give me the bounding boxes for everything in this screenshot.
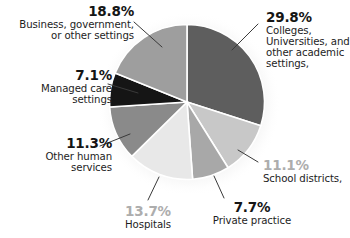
callout-school-districts: 11.1% School districts, xyxy=(263,158,349,184)
percent-managed-care: 7.1% xyxy=(4,68,112,83)
desc-private-practice-line1: Private practice xyxy=(198,215,306,226)
desc-managed-care-line1: Managed care xyxy=(4,83,112,94)
desc-colleges-line2: Universities, and xyxy=(266,36,350,47)
desc-other-human-services-line1: Other human xyxy=(2,151,112,162)
desc-managed-care-line2: settings xyxy=(4,94,112,105)
callout-private-practice: 7.7% Private practice xyxy=(198,200,306,226)
callout-business-government: 18.8% Business, government, or other set… xyxy=(6,4,134,41)
desc-other-human-services-line2: services xyxy=(2,162,112,173)
percent-school-districts: 11.1% xyxy=(263,158,349,173)
percent-private-practice: 7.7% xyxy=(198,200,306,215)
pie-chart-figure: 18.8% Business, government, or other set… xyxy=(0,0,350,238)
desc-colleges-line3: other academic xyxy=(266,47,350,58)
callout-colleges-universities: 29.8% Colleges, Universities, and other … xyxy=(266,10,350,69)
desc-colleges-line4: settings, xyxy=(266,58,350,69)
callout-hospitals: 13.7% Hospitals xyxy=(108,204,188,230)
callout-managed-care: 7.1% Managed care settings xyxy=(4,68,112,105)
desc-colleges-line1: Colleges, xyxy=(266,25,350,36)
percent-business-government: 18.8% xyxy=(6,4,134,19)
desc-school-districts-line1: School districts, xyxy=(263,173,349,184)
percent-other-human-services: 11.3% xyxy=(2,136,112,151)
percent-hospitals: 13.7% xyxy=(108,204,188,219)
percent-colleges-universities: 29.8% xyxy=(266,10,350,25)
desc-business-government-line2: or other settings xyxy=(6,30,134,41)
pie-slices-group xyxy=(109,25,264,180)
desc-business-government-line1: Business, government, xyxy=(6,19,134,30)
desc-hospitals-line1: Hospitals xyxy=(108,219,188,230)
callout-other-human-services: 11.3% Other human services xyxy=(2,136,112,173)
